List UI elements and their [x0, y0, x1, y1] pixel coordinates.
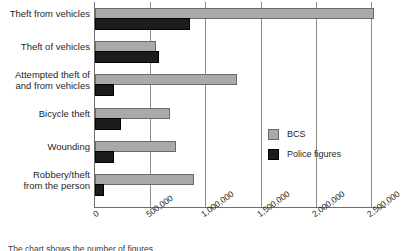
gridline-2000000 [316, 2, 317, 207]
category-label-robbery-theft: Robbery/theft from the person [23, 169, 90, 191]
bar-police-bicycle-theft [95, 118, 121, 130]
legend-swatch-police-icon [268, 149, 279, 160]
figure-caption: The chart shows the number of figures ..… [8, 244, 163, 251]
category-label-wounding: Wounding [47, 141, 90, 152]
bar-police-robbery-theft [95, 184, 104, 196]
legend-swatch-bcs-icon [268, 129, 279, 140]
legend-label-bcs: BCS [287, 129, 306, 139]
bar-police-theft-from-vehicles [95, 18, 190, 30]
plot-area [95, 2, 371, 207]
bar-police-wounding [95, 151, 114, 163]
gridline-2500000 [371, 2, 372, 207]
x-tick-label-0: 0 [91, 208, 101, 219]
gridline-1000000 [205, 2, 206, 207]
bar-police-theft-of-vehicles [95, 51, 159, 63]
legend-item-bcs: BCS [268, 124, 341, 144]
bar-bcs-robbery-theft [95, 174, 194, 185]
category-label-attempted-theft: Attempted theft of and from vehicles [15, 69, 90, 91]
bar-bcs-attempted-theft [95, 74, 237, 85]
gridline-1500000 [261, 2, 262, 207]
category-label-theft-of-vehicles: Theft of vehicles [21, 41, 90, 52]
y-axis-line [94, 2, 95, 208]
category-label-theft-from-vehicles: Theft from vehicles [10, 8, 90, 19]
x-axis-line [94, 207, 386, 208]
category-label-bicycle-theft: Bicycle theft [39, 108, 90, 119]
bar-police-attempted-theft [95, 84, 114, 96]
legend-item-police-figures: Police figures [268, 144, 341, 164]
legend-label-police-figures: Police figures [287, 149, 341, 159]
chart-legend: BCS Police figures [268, 124, 341, 164]
